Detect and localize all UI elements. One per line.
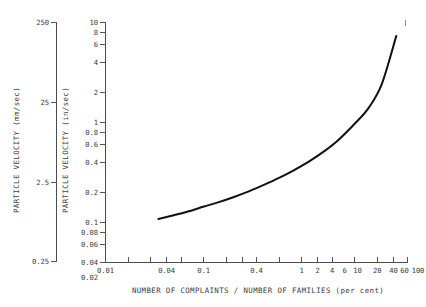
x-axis-title: NUMBER OF COMPLAINTS / NUMBER OF FAMILIE… bbox=[132, 286, 384, 295]
inner-y-ticklabel: 0.02 bbox=[81, 273, 98, 282]
outer-y-ticklabel: 250 bbox=[36, 18, 49, 27]
inner-y-ticklabel: 4 bbox=[94, 58, 98, 67]
inner-y-ticklabel: 0.04 bbox=[81, 258, 98, 267]
x-ticklabel: 2 bbox=[315, 266, 319, 275]
inner-y-ticklabel: 10 bbox=[90, 18, 98, 27]
x-ticklabel: 0.01 bbox=[97, 266, 114, 275]
x-ticklabel: 0.1 bbox=[197, 266, 210, 275]
data-curve bbox=[158, 36, 396, 219]
chart-canvas: 250 25 2.5 0.25 PARTICLE VELOCITY (mm/se… bbox=[0, 0, 426, 307]
outer-y-ticklabel: 2.5 bbox=[36, 178, 49, 187]
inner-y-ticks bbox=[100, 23, 106, 263]
chart-figure: 250 25 2.5 0.25 PARTICLE VELOCITY (mm/se… bbox=[0, 0, 426, 307]
inner-y-ticklabel: 0.6 bbox=[85, 140, 98, 149]
data-series-group bbox=[158, 36, 396, 219]
x-ticklabel: 4 bbox=[330, 266, 334, 275]
x-axis: 0.01 0.04 0.1 0.4 1 2 4 6 10 20 40 60 10… bbox=[97, 257, 424, 295]
inner-y-ticklabel: 2 bbox=[94, 88, 98, 97]
outer-y-axis: 250 25 2.5 0.25 PARTICLE VELOCITY (mm/se… bbox=[12, 18, 57, 266]
x-ticklabel: 100 bbox=[412, 266, 425, 275]
inner-y-ticklabel: 0.4 bbox=[85, 158, 98, 167]
inner-y-axis-title: PARTICLE VELOCITY (in/sec) bbox=[61, 87, 70, 213]
inner-y-ticklabel: 6 bbox=[94, 40, 98, 49]
inner-y-ticklabel: 0.1 bbox=[85, 218, 98, 227]
inner-y-ticklabel: 8 bbox=[94, 28, 98, 37]
x-ticklabel: 60 bbox=[400, 266, 408, 275]
x-ticklabel: 0.4 bbox=[250, 266, 263, 275]
inner-y-ticklabel: 1 bbox=[94, 118, 98, 127]
x-ticks bbox=[106, 257, 408, 263]
inner-y-ticklabel: 0.8 bbox=[85, 128, 98, 137]
outer-y-ticks bbox=[51, 23, 57, 262]
inner-y-ticklabel: 0.08 bbox=[81, 228, 98, 237]
outer-y-ticklabel: 25 bbox=[41, 98, 49, 107]
outer-y-ticklabel: 0.25 bbox=[32, 257, 49, 266]
x-ticklabel: 10 bbox=[353, 266, 361, 275]
x-ticklabel: 20 bbox=[373, 266, 381, 275]
x-ticklabel: 1 bbox=[300, 266, 304, 275]
inner-y-ticklabel: 0.06 bbox=[81, 240, 98, 249]
inner-y-axis: 10 8 6 4 2 1 0.8 0.6 0.4 0.2 0.1 0.08 0.… bbox=[61, 18, 106, 282]
inner-y-ticklabel: 0.2 bbox=[85, 188, 98, 197]
x-ticklabel: 0.04 bbox=[158, 266, 175, 275]
x-ticklabel: 6 bbox=[342, 266, 346, 275]
outer-y-axis-title: PARTICLE VELOCITY (mm/sec) bbox=[12, 87, 21, 213]
x-ticklabel: 40 bbox=[389, 266, 397, 275]
